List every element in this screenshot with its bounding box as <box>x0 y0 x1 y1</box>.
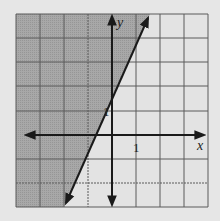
inequality-graph: y x 1 1 <box>0 0 220 221</box>
x-tick-label-1: 1 <box>133 140 140 155</box>
y-tick-label-1: 1 <box>103 104 110 119</box>
y-axis-label: y <box>115 15 124 30</box>
x-axis-label: x <box>196 138 204 153</box>
